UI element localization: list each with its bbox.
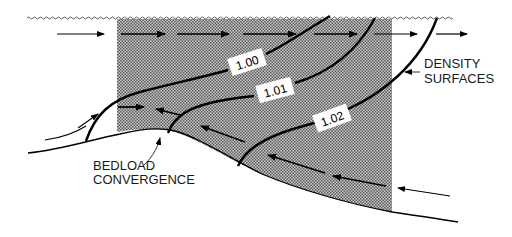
density-surfaces-label-line2: SURFACES xyxy=(424,71,494,86)
water-surface-line xyxy=(27,17,453,19)
bedload-label-line1: BEDLOAD xyxy=(93,158,155,173)
estuary-diagram: 1.00 1.01 1.02 DENSITY SURFACES BEDL xyxy=(0,0,512,237)
density-surfaces-label-line1: DENSITY xyxy=(424,56,481,71)
bedload-label-line2: CONVERGENCE xyxy=(93,172,195,187)
river-inflow-line xyxy=(45,126,86,140)
bottom-arrow xyxy=(398,188,450,196)
